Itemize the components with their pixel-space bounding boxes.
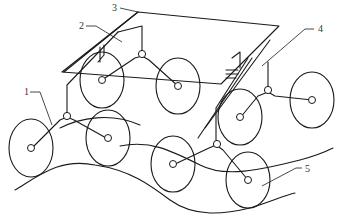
rear-left-rocker-arm bbox=[102, 56, 178, 86]
wheel-1 bbox=[9, 119, 53, 177]
front-left-rocker-arm bbox=[31, 117, 108, 149]
suspension-diagram: 1 2 3 4 5 bbox=[0, 0, 343, 221]
front-left-pivot bbox=[63, 112, 70, 119]
label-2: 2 bbox=[79, 20, 84, 31]
label-4: 4 bbox=[318, 23, 323, 34]
rear-right-rocker-arm bbox=[240, 92, 312, 118]
terrain-front bbox=[15, 163, 295, 213]
leader-3 bbox=[120, 8, 138, 12]
platform-body bbox=[62, 12, 279, 84]
front-right-rocker-arm bbox=[173, 145, 248, 180]
front-right-pivot bbox=[213, 140, 220, 147]
leader-5 bbox=[262, 168, 302, 186]
wheel-5 bbox=[218, 89, 262, 145]
label-5: 5 bbox=[305, 163, 310, 174]
label-1: 1 bbox=[24, 86, 29, 97]
wheel-8 bbox=[226, 152, 270, 208]
leader-1 bbox=[30, 92, 52, 125]
diagonal-member-b bbox=[198, 58, 252, 138]
wheel-2 bbox=[86, 110, 130, 166]
rear-left-strut bbox=[118, 26, 142, 52]
rear-right-pivot bbox=[264, 86, 271, 93]
wheel-4 bbox=[156, 58, 200, 114]
wheel-7 bbox=[151, 136, 195, 192]
label-3: 3 bbox=[112, 2, 117, 13]
rear-left-pivot bbox=[138, 50, 145, 57]
wheel-3 bbox=[80, 52, 124, 108]
front-left-strut bbox=[67, 32, 118, 112]
wheel-6 bbox=[290, 72, 334, 128]
